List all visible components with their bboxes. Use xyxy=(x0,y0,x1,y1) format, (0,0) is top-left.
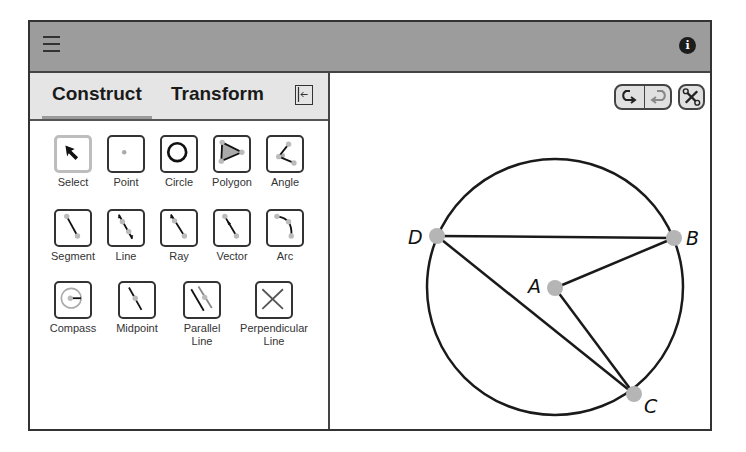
polygon-icon xyxy=(215,137,249,171)
point-D[interactable] xyxy=(429,228,445,244)
tool-label: Angle xyxy=(258,176,312,189)
tool-label: Midpoint xyxy=(110,322,164,335)
tool-label: Line xyxy=(99,250,153,263)
segment-DB[interactable] xyxy=(437,236,674,238)
tool-label: ParallelLine xyxy=(175,322,229,348)
label-A: A xyxy=(526,275,541,297)
tab-construct[interactable]: Construct xyxy=(52,83,142,105)
segment-AB[interactable] xyxy=(555,238,674,288)
line-icon xyxy=(109,211,143,245)
info-icon[interactable]: i xyxy=(679,37,696,54)
tool-arc[interactable]: Arc xyxy=(258,209,312,263)
point-icon xyxy=(109,137,143,171)
circle-icon xyxy=(162,137,196,171)
geometry-drawing: D B A C xyxy=(328,73,712,433)
tool-label: Arc xyxy=(258,250,312,263)
ray-icon xyxy=(162,211,196,245)
tool-label: Point xyxy=(99,176,153,189)
label-D: D xyxy=(408,226,423,248)
tool-label: Circle xyxy=(152,176,206,189)
segment-icon xyxy=(56,211,90,245)
tool-label: Select xyxy=(46,176,100,189)
arc-icon xyxy=(268,211,302,245)
compass-icon xyxy=(56,283,90,317)
tool-label: Ray xyxy=(152,250,206,263)
header-bar: i xyxy=(30,22,710,73)
tool-label: Segment xyxy=(46,250,100,263)
tool-polygon[interactable]: Polygon xyxy=(205,135,259,189)
tool-angle[interactable]: Angle xyxy=(258,135,312,189)
tool-parallel-line[interactable]: ParallelLine xyxy=(175,281,229,348)
tab-bar: Construct Transform xyxy=(30,73,328,121)
angle-icon xyxy=(268,137,302,171)
geometry-canvas[interactable]: D B A C xyxy=(328,73,710,429)
tool-perpendicular-line[interactable]: PerpendicularLine xyxy=(234,281,314,348)
point-A[interactable] xyxy=(547,280,563,296)
parallel-line-icon xyxy=(185,283,219,317)
tool-compass[interactable]: Compass xyxy=(46,281,100,335)
active-tab-indicator xyxy=(42,116,152,119)
midpoint-icon xyxy=(120,283,154,317)
tool-label: Vector xyxy=(205,250,259,263)
tool-segment[interactable]: Segment xyxy=(46,209,100,263)
tool-label: PerpendicularLine xyxy=(234,322,314,348)
label-B: B xyxy=(686,227,699,249)
tool-ray[interactable]: Ray xyxy=(152,209,206,263)
segment-DC[interactable] xyxy=(437,236,634,394)
point-B[interactable] xyxy=(666,230,682,246)
tool-circle[interactable]: Circle xyxy=(152,135,206,189)
tool-midpoint[interactable]: Midpoint xyxy=(110,281,164,335)
tool-select[interactable]: Select xyxy=(46,135,100,189)
point-C[interactable] xyxy=(626,386,642,402)
tool-sidebar: Construct Transform Select xyxy=(30,73,330,429)
tool-vector[interactable]: Vector xyxy=(205,209,259,263)
label-C: C xyxy=(644,395,658,417)
collapse-panel-icon xyxy=(296,86,311,103)
vector-icon xyxy=(215,211,249,245)
tool-line[interactable]: Line xyxy=(99,209,153,263)
tool-label: Polygon xyxy=(205,176,259,189)
app-window: i Construct Transform Select xyxy=(28,20,712,431)
tool-label: Compass xyxy=(46,322,100,335)
tool-point[interactable]: Point xyxy=(99,135,153,189)
hamburger-menu-icon[interactable] xyxy=(43,36,60,53)
collapse-panel-button[interactable] xyxy=(295,85,313,105)
arrow-cursor-icon xyxy=(57,138,89,170)
tab-transform[interactable]: Transform xyxy=(171,83,264,105)
perpendicular-line-icon xyxy=(257,283,291,317)
